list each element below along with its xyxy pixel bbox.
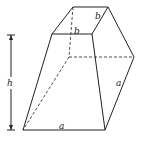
height-label: h xyxy=(7,78,13,88)
front-right-lateral-edge xyxy=(92,34,105,130)
height-top-arrow xyxy=(9,35,13,40)
top-front-label: b xyxy=(74,26,80,36)
bottom-side-label: a xyxy=(116,78,121,88)
hidden-bottom-left-edge xyxy=(23,57,69,130)
front-left-lateral-edge xyxy=(23,34,52,130)
frustum-diagram: h b b a a xyxy=(0,0,142,143)
bottom-right-edge xyxy=(105,57,134,130)
back-right-lateral-edge xyxy=(108,7,134,57)
bottom-front-label: a xyxy=(59,121,64,131)
top-side-label: b xyxy=(95,11,101,21)
height-bottom-arrow xyxy=(9,125,13,130)
hidden-back-left-lateral-edge xyxy=(69,7,73,57)
top-left-edge xyxy=(52,7,73,34)
